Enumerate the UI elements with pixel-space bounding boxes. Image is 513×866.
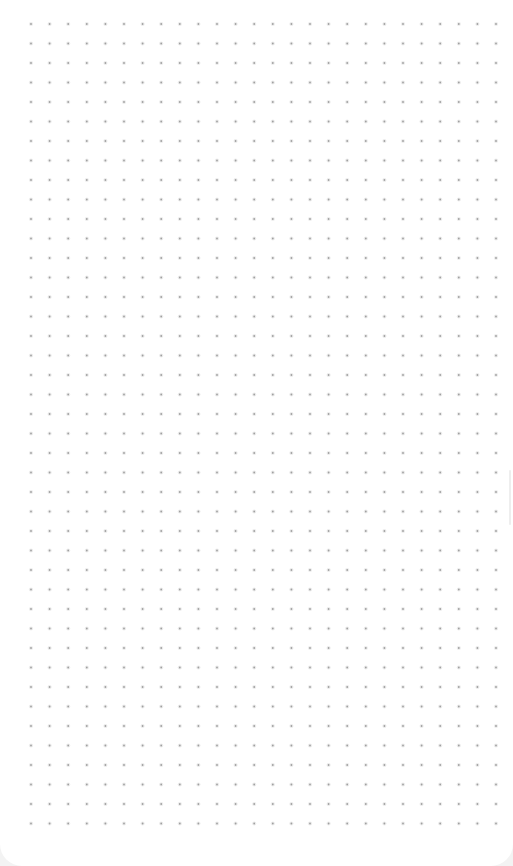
scrollbar[interactable] bbox=[509, 470, 511, 525]
drawing-canvas[interactable] bbox=[0, 0, 513, 866]
dot-grid-pattern bbox=[0, 0, 513, 866]
